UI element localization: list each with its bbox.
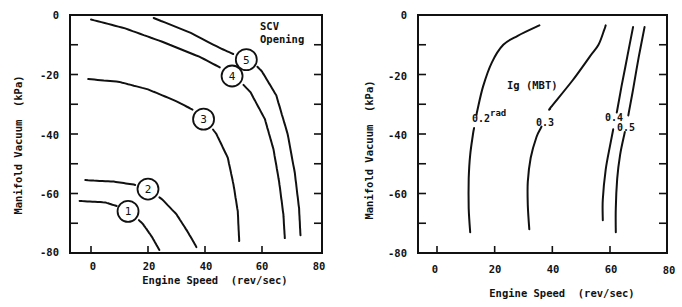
ig-curve-0.5 bbox=[616, 132, 625, 232]
left-xtick-0: 0 bbox=[90, 260, 96, 272]
figure-canvas: 12345 0 -20 -40 -60 -80 0 20 40 60 80 En… bbox=[0, 0, 682, 307]
right-xtick-60: 60 bbox=[605, 263, 618, 275]
scv-curve-3 bbox=[88, 79, 192, 110]
scv-curve-3 bbox=[213, 130, 239, 242]
scv-curve-1 bbox=[139, 220, 160, 250]
left-ylabel: Manifold Vacuum (kPa) bbox=[12, 75, 24, 214]
curve-label-0.2: 0.2 bbox=[472, 113, 490, 124]
left-xtick-80: 80 bbox=[313, 260, 326, 272]
right-xtick-80: 80 bbox=[663, 264, 676, 276]
right-xlabel: Engine Speed (rev/sec) bbox=[489, 287, 634, 299]
right-ytick-60: -60 bbox=[388, 188, 407, 200]
unit-rad-label: rad bbox=[490, 108, 506, 118]
scv-marker-label-1: 1 bbox=[125, 205, 132, 218]
left-xlabel: Engine Speed (rev/sec) bbox=[142, 274, 287, 286]
scv-curve-4 bbox=[244, 85, 285, 238]
right-xtick-0: 0 bbox=[432, 263, 438, 275]
right-xtick-40: 40 bbox=[547, 263, 560, 275]
right-ticks bbox=[418, 45, 667, 253]
ig-curve-0.3 bbox=[528, 127, 542, 230]
right-ytick-0: 0 bbox=[401, 9, 407, 21]
scv-curve-1 bbox=[80, 201, 117, 206]
ig-curve-0.3 bbox=[549, 25, 606, 109]
left-chart: 12345 0 -20 -40 -60 -80 0 20 40 60 80 En… bbox=[12, 9, 325, 286]
scv-curve-5 bbox=[154, 18, 234, 54]
left-curves bbox=[80, 18, 301, 250]
right-xtick-20: 20 bbox=[489, 263, 502, 275]
right-ytick-20: -20 bbox=[388, 70, 407, 82]
right-chart: 0 -20 -40 -60 -80 0 20 40 60 80 Engine S… bbox=[363, 9, 675, 299]
left-xtick-60: 60 bbox=[256, 260, 269, 272]
curve-label-0.3: 0.3 bbox=[536, 117, 554, 128]
right-ytick-40: -40 bbox=[388, 129, 407, 141]
left-ytick-0: 0 bbox=[53, 9, 59, 21]
left-xtick-40: 40 bbox=[200, 260, 213, 272]
left-ytick-20: -20 bbox=[40, 69, 59, 81]
scv-curve-4 bbox=[91, 20, 220, 68]
scv-marker-label-5: 5 bbox=[243, 54, 250, 67]
scv-curve-5 bbox=[257, 67, 300, 235]
scv-label-line1: SCV bbox=[260, 20, 280, 32]
scv-curve-2 bbox=[85, 180, 135, 185]
left-ytick-40: -40 bbox=[40, 129, 59, 141]
scv-marker-label-4: 4 bbox=[229, 70, 236, 83]
ig-curve-0.4 bbox=[603, 129, 614, 220]
right-plot-frame bbox=[418, 15, 667, 253]
scv-marker-label-3: 3 bbox=[200, 113, 207, 126]
ig-curve-0.2 bbox=[477, 25, 540, 114]
ig-mbt-title: Ig (MBT) bbox=[507, 79, 558, 91]
left-ytick-60: -60 bbox=[40, 188, 59, 200]
scv-label-line2: Opening bbox=[260, 33, 304, 45]
left-xtick-20: 20 bbox=[143, 260, 156, 272]
left-ytick-80: -80 bbox=[40, 246, 59, 258]
scv-marker-label-2: 2 bbox=[145, 183, 152, 196]
curve-label-0.5: 0.5 bbox=[617, 122, 635, 133]
right-ytick-80: -80 bbox=[388, 247, 407, 259]
ig-curve-0.2 bbox=[469, 128, 475, 232]
scv-curve-2 bbox=[159, 197, 196, 247]
right-ylabel: Manifold Vacuum (kPa) bbox=[363, 80, 375, 219]
